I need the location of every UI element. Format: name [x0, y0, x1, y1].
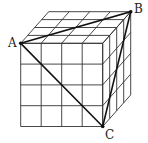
triangle-outline — [21, 12, 131, 127]
cube-diagram: A B C — [0, 0, 148, 143]
cube-grid-lines — [21, 12, 131, 127]
label-a: A — [7, 36, 17, 50]
triangle-abc — [21, 12, 131, 127]
label-c: C — [105, 128, 114, 142]
point-c-dot — [101, 125, 105, 129]
point-a-dot — [19, 42, 23, 46]
label-b: B — [134, 2, 143, 16]
point-b-dot — [129, 10, 133, 14]
